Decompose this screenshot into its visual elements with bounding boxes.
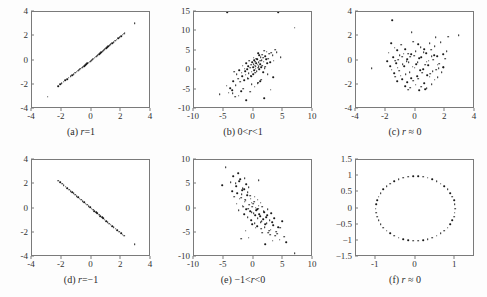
data-point: [422, 176, 424, 178]
data-point: [251, 83, 253, 85]
data-point: [249, 195, 251, 197]
data-point: [421, 57, 423, 59]
data-point: [421, 86, 423, 88]
data-point: [395, 76, 397, 78]
scatter-panel-c: -4-2024-4-2024(c) r ≈ 0: [324, 0, 486, 148]
data-point: [424, 64, 426, 66]
data-point: [405, 74, 407, 76]
y-tick-label: 0: [348, 55, 353, 64]
x-tick-label: -4: [351, 112, 359, 121]
y-tick-mark: [355, 59, 358, 60]
data-point: [123, 235, 125, 237]
data-point: [440, 183, 442, 185]
data-point: [246, 69, 248, 71]
data-point: [249, 211, 251, 213]
data-point: [250, 76, 252, 78]
data-point: [271, 213, 273, 215]
data-point: [232, 176, 234, 178]
data-point: [409, 56, 411, 58]
data-point: [246, 62, 248, 64]
data-point: [237, 172, 239, 174]
x-tick-label: 0: [250, 112, 255, 121]
data-point: [421, 72, 423, 74]
data-point: [418, 43, 420, 45]
x-tick-label: 1: [452, 260, 457, 269]
data-point: [389, 233, 391, 235]
data-point: [406, 60, 408, 62]
data-point: [395, 62, 397, 64]
data-point: [376, 216, 378, 218]
data-point: [262, 71, 264, 73]
y-tick-label: 0: [24, 55, 29, 64]
data-point: [371, 68, 373, 70]
data-point: [257, 217, 259, 219]
data-point: [404, 85, 406, 87]
data-point: [407, 89, 409, 91]
data-point: [247, 216, 249, 218]
data-point: [402, 238, 404, 240]
scatter-panel-a: -4-2024-4-2024(a) r=1: [0, 0, 162, 148]
data-point: [262, 57, 264, 59]
data-point: [252, 206, 254, 208]
data-point: [240, 238, 242, 240]
data-point: [437, 64, 439, 66]
data-point: [403, 53, 405, 55]
data-point: [417, 62, 419, 64]
data-point: [407, 239, 409, 241]
data-point: [257, 52, 259, 54]
data-point: [276, 52, 278, 54]
y-tick-label: 1: [348, 171, 353, 180]
data-point: [253, 213, 255, 215]
data-point: [380, 192, 382, 194]
data-point: [267, 73, 269, 75]
data-point: [437, 77, 439, 79]
data-point: [254, 196, 256, 198]
y-tick-label: −1.5: [336, 252, 352, 261]
data-point: [241, 193, 243, 195]
data-point: [244, 70, 246, 72]
data-point: [246, 183, 248, 185]
data-point: [391, 69, 393, 71]
data-point: [231, 90, 233, 92]
data-point: [226, 85, 228, 87]
data-point: [432, 178, 434, 180]
y-tick-mark: [355, 239, 358, 240]
caption-symbol: r: [81, 126, 85, 137]
data-point: [409, 71, 411, 73]
data-point: [285, 242, 287, 244]
panel-caption-c: (c) r ≈ 0: [324, 126, 486, 137]
data-point: [422, 68, 424, 70]
data-point: [241, 72, 243, 74]
data-point: [253, 57, 255, 59]
x-tick-label: 4: [148, 112, 153, 121]
data-point: [390, 42, 392, 44]
y-tick-label: 10: [181, 26, 190, 35]
data-point: [257, 83, 259, 85]
data-point: [266, 51, 268, 53]
data-point: [258, 180, 260, 182]
data-point: [434, 45, 436, 47]
data-point: [401, 78, 403, 80]
data-point: [252, 62, 254, 64]
data-point: [253, 201, 255, 203]
data-point: [262, 232, 264, 234]
data-point: [263, 61, 265, 63]
data-point: [231, 190, 233, 192]
data-point: [265, 59, 267, 61]
data-point: [444, 58, 446, 60]
data-point: [255, 58, 257, 60]
data-point: [429, 76, 431, 78]
data-point: [420, 46, 422, 48]
y-tick-label: 0: [186, 65, 191, 74]
panel-caption-e: (e) −1<r<0: [162, 274, 324, 285]
data-point: [235, 182, 237, 184]
data-point: [237, 192, 239, 194]
data-point: [281, 220, 283, 222]
y-tick-label: -5: [183, 84, 191, 93]
y-tick-label: 15: [181, 7, 190, 16]
data-point: [447, 36, 449, 38]
data-point: [244, 178, 246, 180]
data-point: [407, 58, 409, 60]
data-point: [254, 214, 256, 216]
data-point: [251, 71, 253, 73]
